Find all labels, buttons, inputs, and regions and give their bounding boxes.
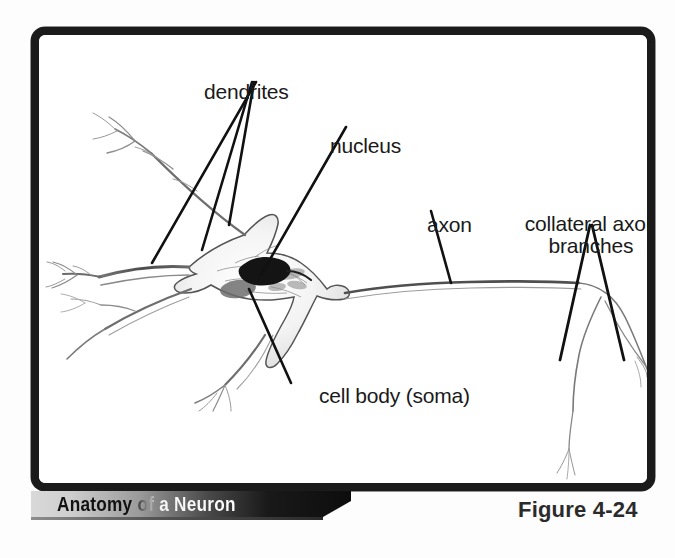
figure-banner: Anatomy of a Neuron — [31, 491, 351, 521]
dendrite-top — [93, 113, 245, 235]
label-collateral-axon-branches: collateral axon branches — [507, 213, 647, 258]
figure-frame: dendrites nucleus axon collateral axon b… — [31, 27, 655, 491]
leader-dendrites-1 — [202, 82, 252, 250]
banner-title: Anatomy of a Neuron — [57, 493, 236, 515]
figure-container: dendrites nucleus axon collateral axon b… — [0, 0, 675, 558]
axon — [345, 281, 647, 379]
label-cell-body-soma: cell body (soma) — [319, 385, 470, 407]
collateral-axon-branches — [557, 297, 647, 479]
neuron-diagram — [39, 35, 647, 483]
dendrite-mid-left — [61, 289, 191, 359]
soma-body — [174, 214, 349, 367]
dendrite-upper-left — [46, 262, 189, 288]
banner-underline — [31, 517, 323, 520]
figure-number: Figure 4-24 — [518, 497, 638, 523]
label-axon: axon — [427, 214, 472, 236]
label-nucleus: nucleus — [330, 135, 401, 157]
figure-canvas: dendrites nucleus axon collateral axon b… — [39, 35, 647, 483]
dendrite-lower — [195, 335, 273, 411]
soma-group — [174, 214, 349, 367]
label-dendrites: dendrites — [204, 81, 289, 103]
leader-dendrites-2 — [229, 82, 254, 225]
